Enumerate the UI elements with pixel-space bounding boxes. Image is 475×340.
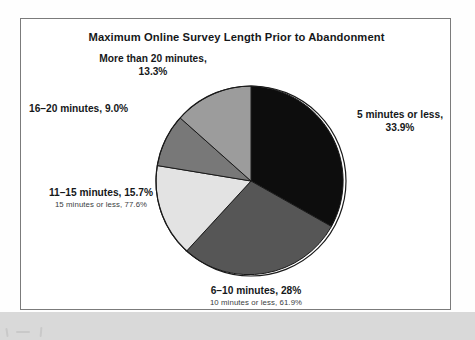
figure-frame: Maximum Online Survey Length Prior to Ab… bbox=[20, 18, 451, 310]
scan-artifact bbox=[16, 331, 30, 333]
label-more-than-20-minutes-line2: 13.3% bbox=[139, 66, 168, 77]
label-5-minutes-or-less-line1: 5 minutes or less, bbox=[357, 109, 443, 120]
label-16-20-minutes: 16–20 minutes, 9.0% bbox=[29, 103, 189, 116]
scan-artifact bbox=[5, 328, 8, 337]
label-more-than-20-minutes-line1: More than 20 minutes, bbox=[99, 53, 207, 64]
label-6-10-minutes-sub: 10 minutes or less, 61.9% bbox=[171, 298, 341, 308]
label-6-10-minutes: 6–10 minutes, 28% 10 minutes or less, 61… bbox=[171, 285, 341, 307]
scan-artifact bbox=[40, 327, 43, 337]
page-bottom-edge bbox=[0, 312, 475, 340]
pie-chart: More than 20 minutes, 13.3% 16–20 minute… bbox=[21, 19, 452, 311]
label-11-15-minutes: 11–15 minutes, 15.7% 15 minutes or less,… bbox=[21, 187, 181, 209]
label-11-15-minutes-text: 11–15 minutes, 15.7% bbox=[49, 187, 153, 198]
label-more-than-20-minutes: More than 20 minutes, 13.3% bbox=[83, 53, 223, 79]
label-5-minutes-or-less-line2: 33.9% bbox=[386, 122, 415, 133]
label-11-15-minutes-sub: 15 minutes or less, 77.6% bbox=[21, 200, 181, 210]
label-5-minutes-or-less: 5 minutes or less, 33.9% bbox=[345, 109, 455, 135]
label-6-10-minutes-text: 6–10 minutes, 28% bbox=[211, 285, 302, 296]
scanned-page: Maximum Online Survey Length Prior to Ab… bbox=[0, 0, 475, 340]
label-16-20-minutes-text: 16–20 minutes, 9.0% bbox=[29, 103, 128, 114]
